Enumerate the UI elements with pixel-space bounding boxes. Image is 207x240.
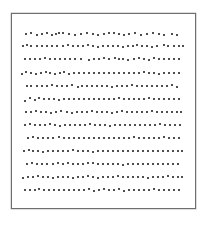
dot xyxy=(171,111,173,113)
dot xyxy=(27,176,29,178)
dot xyxy=(118,58,120,60)
dot xyxy=(118,72,120,74)
dot xyxy=(123,98,125,100)
dot xyxy=(87,162,89,164)
dot xyxy=(132,45,134,47)
dot xyxy=(143,71,145,73)
dot xyxy=(84,124,86,126)
dot xyxy=(163,34,165,36)
dot xyxy=(30,32,32,34)
dot xyxy=(103,188,105,190)
dot xyxy=(152,163,154,165)
dot xyxy=(69,58,71,60)
dot xyxy=(146,85,148,87)
dot xyxy=(174,124,176,126)
dot xyxy=(64,58,66,60)
dot xyxy=(39,58,41,60)
dot xyxy=(57,150,59,152)
dot xyxy=(42,176,44,178)
dot xyxy=(68,98,70,100)
dot xyxy=(156,111,158,113)
dot xyxy=(41,163,43,165)
dot xyxy=(38,188,40,190)
dot xyxy=(79,124,81,126)
dot xyxy=(49,72,51,74)
dot xyxy=(112,163,114,165)
dot xyxy=(67,162,69,164)
dot xyxy=(47,137,49,139)
dot xyxy=(92,151,94,153)
dot xyxy=(51,45,53,47)
dot xyxy=(133,189,135,191)
dot xyxy=(142,150,144,152)
dot xyxy=(132,176,134,178)
dot xyxy=(24,189,26,191)
dot xyxy=(177,163,179,165)
dot xyxy=(146,45,148,47)
dot xyxy=(73,98,75,100)
dot xyxy=(54,58,56,60)
dot xyxy=(101,85,103,87)
dot xyxy=(26,85,28,87)
dot xyxy=(97,34,99,36)
dot xyxy=(59,125,61,127)
dot xyxy=(162,176,164,178)
dot xyxy=(151,110,153,112)
dot xyxy=(25,71,27,73)
dot xyxy=(179,124,181,126)
dot xyxy=(96,111,98,113)
dot xyxy=(30,85,32,87)
dot xyxy=(74,34,76,36)
dot xyxy=(67,150,69,152)
dot xyxy=(142,176,144,178)
dot xyxy=(45,111,47,113)
dot xyxy=(60,110,62,112)
dot xyxy=(152,32,154,34)
dot xyxy=(43,189,45,191)
dot xyxy=(172,163,174,165)
dot xyxy=(56,45,58,47)
dot xyxy=(122,164,124,166)
dot xyxy=(168,72,170,74)
dot xyxy=(141,111,143,113)
dot xyxy=(82,150,84,152)
dot xyxy=(148,59,150,61)
dot xyxy=(118,188,120,190)
dot xyxy=(97,163,99,165)
dot xyxy=(93,190,95,192)
dot xyxy=(123,34,125,36)
dot xyxy=(41,45,43,47)
dot xyxy=(54,124,56,126)
dot xyxy=(168,58,170,60)
dot xyxy=(107,150,109,152)
dot xyxy=(66,85,68,87)
dot xyxy=(117,150,119,152)
dot xyxy=(180,111,182,113)
dot xyxy=(36,45,38,47)
dot xyxy=(133,98,135,100)
dot xyxy=(56,85,58,87)
dot xyxy=(55,33,57,35)
dot xyxy=(31,162,33,164)
dot xyxy=(72,163,74,165)
dot xyxy=(98,72,100,74)
dot xyxy=(102,45,104,47)
dot xyxy=(82,163,84,165)
dot xyxy=(131,84,133,86)
dot xyxy=(77,45,79,47)
dot xyxy=(122,58,124,60)
dot xyxy=(72,149,74,151)
dot xyxy=(116,111,118,113)
dot xyxy=(47,150,49,152)
dot xyxy=(103,98,105,100)
dot xyxy=(83,137,85,139)
dot xyxy=(139,124,141,126)
dot xyxy=(35,73,37,75)
dot xyxy=(92,45,94,47)
dot xyxy=(168,137,170,139)
dot xyxy=(74,124,76,126)
dot xyxy=(163,98,165,100)
dot xyxy=(34,189,36,191)
dot xyxy=(97,177,99,179)
dot xyxy=(86,85,88,87)
